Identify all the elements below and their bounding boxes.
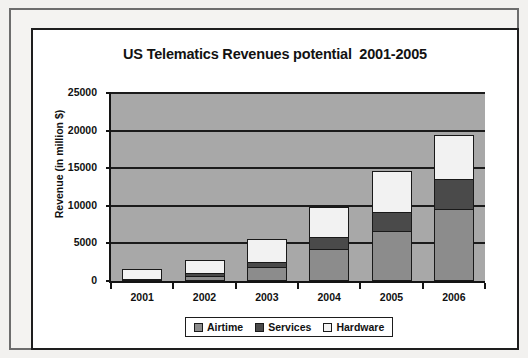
bar-segment-airtime-2001 bbox=[122, 279, 162, 281]
x-axis-tick-mark bbox=[297, 283, 299, 289]
bar-segment-airtime-2002 bbox=[185, 276, 225, 281]
plot-area: 200120022003200420052006 bbox=[109, 93, 485, 283]
bar-segment-hardware-2006 bbox=[434, 135, 474, 179]
x-axis-tick-label-2002: 2002 bbox=[175, 291, 235, 303]
x-axis-tick-mark bbox=[422, 283, 424, 289]
bar-segment-hardware-2001 bbox=[122, 269, 162, 279]
bar-segment-hardware-2003 bbox=[247, 239, 287, 262]
chart-title: US Telematics Revenues potential 2001-20… bbox=[33, 46, 517, 62]
bar-segment-airtime-2006 bbox=[434, 209, 474, 281]
chart-legend: AirtimeServicesHardware bbox=[185, 317, 393, 337]
x-axis-tick-mark bbox=[484, 283, 486, 289]
bar-segment-hardware-2005 bbox=[372, 171, 412, 212]
bar-segment-airtime-2004 bbox=[309, 249, 349, 281]
x-axis-tick-label-2003: 2003 bbox=[237, 291, 297, 303]
gridline bbox=[111, 92, 485, 94]
bar-segment-services-2005 bbox=[372, 212, 412, 232]
y-axis-tick-label: 0 bbox=[41, 274, 97, 286]
legend-label: Hardware bbox=[336, 321, 384, 333]
legend-item-hardware[interactable]: Hardware bbox=[323, 321, 384, 333]
gridline bbox=[111, 167, 485, 169]
gridline bbox=[111, 130, 485, 132]
x-axis-tick-label-2005: 2005 bbox=[362, 291, 422, 303]
legend-label: Services bbox=[268, 321, 311, 333]
y-axis-tick-mark bbox=[106, 92, 111, 94]
legend-item-services[interactable]: Services bbox=[255, 321, 311, 333]
x-axis-tick-label-2004: 2004 bbox=[299, 291, 359, 303]
y-axis-tick-mark bbox=[106, 130, 111, 132]
gridline bbox=[111, 242, 485, 244]
y-axis-tick-mark bbox=[106, 205, 111, 207]
chart-container: US Telematics Revenues potential 2001-20… bbox=[31, 28, 519, 350]
gridline bbox=[111, 205, 485, 207]
bar-segment-hardware-2004 bbox=[309, 207, 349, 237]
legend-label: Airtime bbox=[207, 321, 243, 333]
x-axis-tick-mark bbox=[110, 283, 112, 289]
legend-swatch-icon-airtime bbox=[194, 323, 203, 332]
legend-swatch-icon-services bbox=[255, 323, 264, 332]
y-axis-tick-label: 5000 bbox=[41, 236, 97, 248]
y-axis-tick-mark bbox=[106, 280, 111, 282]
x-axis-tick-mark bbox=[235, 283, 237, 289]
bar-column-2001 bbox=[122, 269, 162, 281]
bar-column-2004 bbox=[309, 207, 349, 281]
y-axis-tick-label: 20000 bbox=[41, 124, 97, 136]
bar-column-2006 bbox=[434, 135, 474, 281]
y-axis-tick-label: 10000 bbox=[41, 199, 97, 211]
x-axis-tick-mark bbox=[172, 283, 174, 289]
y-axis-tick-label: 15000 bbox=[41, 161, 97, 173]
x-axis-tick-label-2001: 2001 bbox=[112, 291, 172, 303]
bar-column-2003 bbox=[247, 239, 287, 281]
legend-item-airtime[interactable]: Airtime bbox=[194, 321, 243, 333]
bar-segment-services-2004 bbox=[309, 237, 349, 249]
page-outer-border: US Telematics Revenues potential 2001-20… bbox=[9, 8, 519, 350]
y-axis-tick-label: 25000 bbox=[41, 86, 97, 98]
bar-segment-airtime-2003 bbox=[247, 267, 287, 281]
bar-column-2005 bbox=[372, 171, 412, 281]
x-axis-tick-mark bbox=[359, 283, 361, 289]
y-axis-tick-mark bbox=[106, 242, 111, 244]
legend-swatch-icon-hardware bbox=[323, 323, 332, 332]
scanned-page-background: US Telematics Revenues potential 2001-20… bbox=[0, 0, 528, 358]
bar-column-2002 bbox=[185, 260, 225, 281]
bar-segment-hardware-2002 bbox=[185, 260, 225, 273]
y-axis-tick-mark bbox=[106, 167, 111, 169]
x-axis-tick-label-2006: 2006 bbox=[424, 291, 484, 303]
bar-segment-airtime-2005 bbox=[372, 231, 412, 281]
bar-segment-services-2006 bbox=[434, 179, 474, 209]
